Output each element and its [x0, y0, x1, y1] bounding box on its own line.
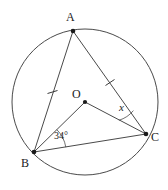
- angle-label-34-degrees: 34°: [54, 131, 68, 141]
- tick-mark-ac: [106, 80, 115, 86]
- segment-oc: [85, 102, 146, 134]
- vertex-dot-b: [32, 150, 37, 155]
- segment-bc: [34, 134, 146, 152]
- point-label-o: O: [72, 88, 81, 100]
- vertex-dot-c: [144, 132, 149, 137]
- point-label-a: A: [66, 11, 75, 23]
- angle-label-x: x: [119, 102, 124, 113]
- point-label-c: C: [151, 131, 159, 143]
- point-label-b: B: [21, 157, 29, 169]
- vertex-dot-a: [71, 29, 76, 34]
- geometry-diagram: A B C O 34° x: [0, 0, 168, 190]
- center-dot-o: [83, 100, 87, 104]
